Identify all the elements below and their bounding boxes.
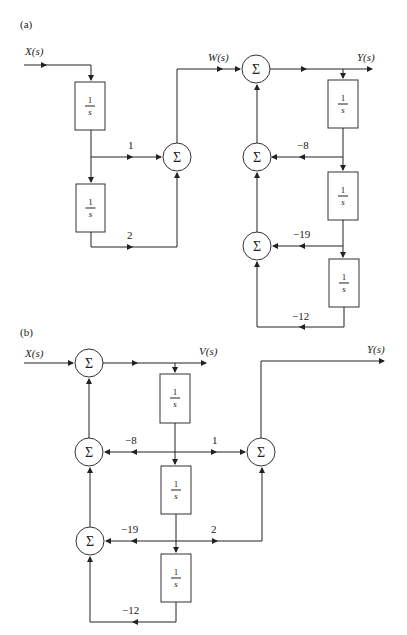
svg-text:s: s bbox=[173, 399, 177, 409]
summing-junction: Σ bbox=[163, 143, 191, 171]
integrator-block: 1 s bbox=[328, 80, 358, 128]
svg-text:s: s bbox=[341, 105, 345, 115]
svg-text:Σ: Σ bbox=[253, 150, 261, 165]
gain-label: −12 bbox=[292, 310, 309, 322]
signal-line bbox=[130, 173, 177, 247]
w-signal-line bbox=[177, 69, 222, 143]
svg-text:Σ: Σ bbox=[252, 62, 260, 77]
block-diagram-figure: (a) X(s) 1 s 1 1 s 2 Σ bbox=[0, 0, 407, 635]
integrator-block: 1 s bbox=[329, 259, 359, 307]
svg-text:1: 1 bbox=[342, 272, 347, 282]
summing-junction: Σ bbox=[76, 527, 104, 555]
svg-text:1: 1 bbox=[174, 567, 179, 577]
summing-junction: Σ bbox=[243, 143, 271, 171]
svg-text:Σ: Σ bbox=[85, 356, 93, 371]
panel-a: (a) X(s) 1 s 1 1 s 2 Σ bbox=[20, 18, 375, 327]
svg-text:1: 1 bbox=[341, 185, 346, 195]
summing-junction: Σ bbox=[75, 349, 103, 377]
signal-line bbox=[215, 468, 262, 541]
svg-text:s: s bbox=[174, 491, 178, 501]
svg-text:Σ: Σ bbox=[173, 150, 181, 165]
output-arrow bbox=[261, 361, 384, 438]
gain-label: 2 bbox=[127, 229, 133, 241]
svg-text:s: s bbox=[89, 209, 93, 219]
gain-label: −8 bbox=[297, 139, 309, 151]
svg-text:Σ: Σ bbox=[257, 445, 265, 460]
gain-label: −19 bbox=[293, 228, 311, 240]
output-signal-label: Y(s) bbox=[357, 51, 375, 64]
svg-text:s: s bbox=[174, 579, 178, 589]
input-signal-label: X(s) bbox=[24, 45, 44, 58]
svg-text:Σ: Σ bbox=[86, 534, 94, 549]
svg-text:1: 1 bbox=[173, 387, 178, 397]
svg-text:1: 1 bbox=[88, 95, 93, 105]
panel-b-label: (b) bbox=[20, 326, 33, 339]
svg-text:1: 1 bbox=[174, 479, 179, 489]
panel-b: (b) X(s) Σ V(s) 1 s −8 1 Σ bbox=[20, 326, 385, 622]
svg-text:s: s bbox=[342, 284, 346, 294]
integrator-block: 1 s bbox=[161, 466, 191, 514]
panel-a-label: (a) bbox=[20, 18, 33, 31]
svg-text:1: 1 bbox=[88, 197, 93, 207]
gain-label: −19 bbox=[121, 523, 139, 535]
summing-junction: Σ bbox=[247, 438, 275, 466]
svg-text:s: s bbox=[341, 197, 345, 207]
gain-label: 1 bbox=[128, 139, 134, 151]
feedback-path-m12 bbox=[133, 602, 176, 622]
gain-label: 1 bbox=[212, 434, 218, 446]
v-signal-label: V(s) bbox=[199, 345, 218, 358]
summing-junction: Σ bbox=[75, 438, 103, 466]
integrator-block: 1 s bbox=[161, 554, 191, 602]
svg-text:s: s bbox=[88, 107, 92, 117]
output-signal-label: Y(s) bbox=[367, 343, 385, 356]
svg-text:1: 1 bbox=[341, 93, 346, 103]
integrator-block: 1 s bbox=[160, 374, 190, 423]
svg-text:Σ: Σ bbox=[85, 445, 93, 460]
integrator-block: 1 s bbox=[76, 184, 105, 232]
input-signal-label: X(s) bbox=[24, 347, 44, 360]
w-signal-label: W(s) bbox=[208, 51, 229, 64]
integrator-block: 1 s bbox=[75, 82, 105, 130]
gain-label: −12 bbox=[122, 604, 139, 616]
summing-junction: Σ bbox=[243, 232, 271, 260]
gain-label: 2 bbox=[211, 523, 217, 535]
integrator-block: 1 s bbox=[328, 172, 358, 220]
gain-path-2 bbox=[91, 232, 132, 247]
summing-junction: Σ bbox=[242, 55, 270, 83]
gain-label: −8 bbox=[125, 434, 137, 446]
svg-text:Σ: Σ bbox=[253, 239, 261, 254]
input-to-integrator-line bbox=[44, 65, 91, 80]
